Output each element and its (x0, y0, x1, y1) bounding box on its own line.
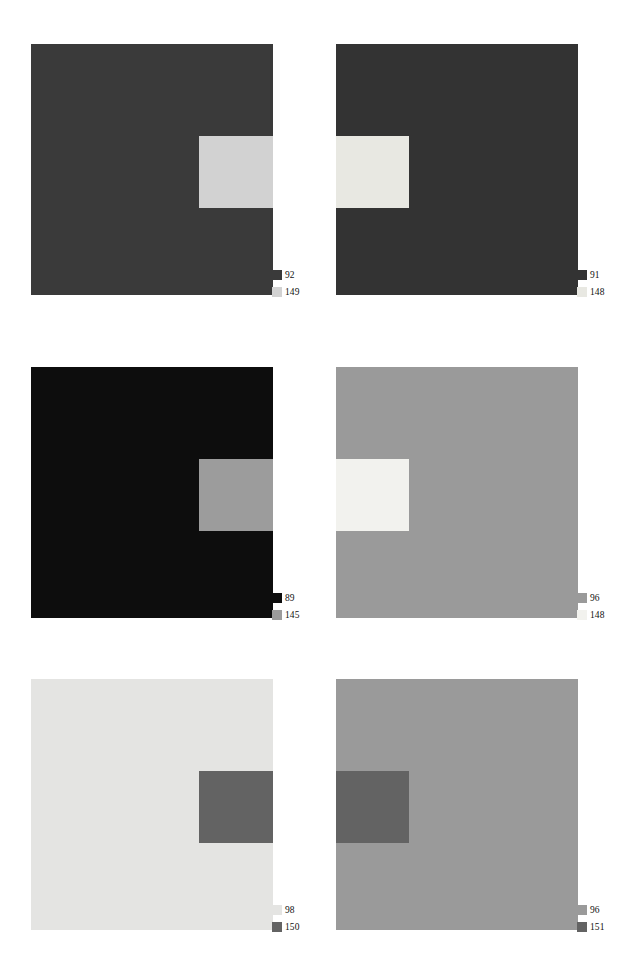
legend-bottom-right: 96 151 (577, 901, 605, 935)
legend-row: 92 (272, 266, 300, 283)
stimulus-surround-middle-left (31, 367, 273, 618)
legend-middle-left: 89 145 (272, 589, 300, 623)
stimulus-inset-patch-top-right (336, 136, 409, 208)
legend-row: 96 (577, 589, 605, 606)
legend-swatch-inset (577, 287, 587, 297)
stimulus-inset-patch-middle-right (336, 459, 409, 531)
legend-swatch-surround (577, 905, 587, 915)
legend-row: 145 (272, 606, 300, 623)
legend-middle-right: 96 148 (577, 589, 605, 623)
legend-top-right: 91 148 (577, 266, 605, 300)
stimulus-inset-patch-middle-left (199, 459, 273, 531)
stimulus-surround-top-right (336, 44, 578, 295)
legend-value-inset: 149 (285, 287, 300, 297)
legend-swatch-inset (272, 610, 282, 620)
legend-value-inset: 148 (590, 287, 605, 297)
panel-bottom-right: 96 151 (336, 679, 578, 930)
panel-top-right: 91 148 (336, 44, 578, 295)
legend-swatch-surround (272, 270, 282, 280)
legend-swatch-surround (272, 593, 282, 603)
legend-value-surround: 96 (590, 905, 600, 915)
legend-row: 148 (577, 606, 605, 623)
stimulus-inset-patch-bottom-right (336, 771, 409, 843)
legend-swatch-surround (577, 270, 587, 280)
panel-middle-left: 89 145 (31, 367, 273, 618)
legend-swatch-inset (272, 922, 282, 932)
legend-swatch-surround (577, 593, 587, 603)
stimulus-inset-patch-top-left (199, 136, 273, 208)
stimulus-surround-top-left (31, 44, 273, 295)
legend-row: 149 (272, 283, 300, 300)
legend-row: 150 (272, 918, 300, 935)
legend-row: 91 (577, 266, 605, 283)
figure-panel-grid: 92 149 91 148 (0, 0, 637, 972)
panel-bottom-left: 98 150 (31, 679, 273, 930)
legend-value-surround: 98 (285, 905, 295, 915)
legend-top-left: 92 149 (272, 266, 300, 300)
legend-bottom-left: 98 150 (272, 901, 300, 935)
panel-top-left: 92 149 (31, 44, 273, 295)
legend-value-inset: 151 (590, 922, 605, 932)
legend-swatch-inset (577, 922, 587, 932)
legend-value-inset: 148 (590, 610, 605, 620)
legend-row: 89 (272, 589, 300, 606)
legend-row: 98 (272, 901, 300, 918)
legend-swatch-surround (272, 905, 282, 915)
stimulus-surround-bottom-left (31, 679, 273, 930)
panel-middle-right: 96 148 (336, 367, 578, 618)
legend-value-surround: 91 (590, 270, 600, 280)
legend-row: 151 (577, 918, 605, 935)
legend-value-surround: 92 (285, 270, 295, 280)
legend-value-surround: 89 (285, 593, 295, 603)
legend-value-inset: 145 (285, 610, 300, 620)
stimulus-surround-middle-right (336, 367, 578, 618)
stimulus-inset-patch-bottom-left (199, 771, 273, 843)
legend-row: 148 (577, 283, 605, 300)
stimulus-surround-bottom-right (336, 679, 578, 930)
legend-value-inset: 150 (285, 922, 300, 932)
legend-value-surround: 96 (590, 593, 600, 603)
legend-swatch-inset (272, 287, 282, 297)
legend-swatch-inset (577, 610, 587, 620)
legend-row: 96 (577, 901, 605, 918)
